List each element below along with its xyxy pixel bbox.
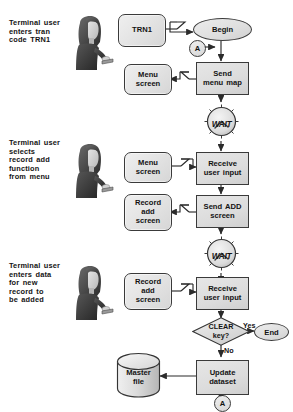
wait-label: WAIT — [203, 235, 240, 276]
caption-terminal-user-select-record-add: Terminal user selects record add functio… — [9, 139, 67, 182]
branch-label-no: No — [224, 346, 234, 355]
connector-a-top[interactable]: A — [189, 40, 206, 57]
screen-box-menu-1[interactable]: Menu screen — [124, 64, 172, 95]
process-send-menu-map[interactable]: Send menu map — [196, 62, 249, 95]
datastore-line: file — [133, 378, 144, 387]
wait-clock-1: WAIT — [203, 103, 240, 144]
process-line: dataset — [209, 378, 236, 387]
process-line: user input — [204, 169, 242, 178]
screen-box-line: screen — [136, 80, 161, 89]
caption-line: from menu — [9, 173, 67, 182]
decision-clear-key[interactable]: CLEAR key? — [192, 317, 250, 346]
caption-line: be added — [9, 296, 67, 305]
process-line: user input — [204, 294, 242, 303]
process-receive-user-input-1[interactable]: Receive user input — [196, 152, 249, 185]
terminator-label: Begin — [212, 25, 233, 34]
screen-box-line: TRN1 — [132, 26, 152, 35]
process-update-dataset[interactable]: Update dataset — [196, 360, 249, 395]
person-figure-1 — [66, 12, 114, 74]
connector-a-bottom[interactable]: A — [214, 395, 231, 412]
terminator-begin[interactable]: Begin — [193, 18, 252, 41]
caption-terminal-user-tran-code: Terminal user enters tran code TRN1 — [9, 19, 67, 45]
screen-box-trn1[interactable]: TRN1 — [118, 14, 166, 47]
caption-line: code TRN1 — [9, 36, 67, 45]
screen-box-line: screen — [135, 217, 161, 226]
wait-label: WAIT — [203, 103, 240, 144]
caption-terminal-user-enters-data: Terminal user enters data for new record… — [9, 262, 67, 305]
connector-label: A — [220, 399, 225, 408]
terminator-end[interactable]: End — [254, 323, 289, 341]
process-send-add-screen[interactable]: Send ADD screen — [196, 195, 249, 228]
screen-box-menu-2[interactable]: Menu screen — [124, 152, 172, 183]
process-line: screen — [204, 212, 242, 221]
datastore-master-file[interactable]: Master file — [116, 352, 161, 398]
wait-clock-2: WAIT — [203, 235, 240, 276]
branch-label-yes: Yes — [243, 321, 255, 330]
decision-line: key? — [213, 332, 229, 340]
connector-label: A — [195, 44, 200, 53]
screen-box-record-add-2[interactable]: Record add screen — [124, 273, 172, 310]
terminator-label: End — [264, 328, 278, 337]
process-line: menu map — [203, 79, 242, 88]
screen-box-line: screen — [136, 168, 161, 177]
person-figure-3 — [66, 262, 114, 324]
process-receive-user-input-2[interactable]: Receive user input — [196, 277, 249, 310]
screen-box-line: screen — [135, 296, 161, 305]
screen-box-record-add-1[interactable]: Record add screen — [124, 194, 172, 231]
person-figure-2 — [66, 140, 114, 202]
